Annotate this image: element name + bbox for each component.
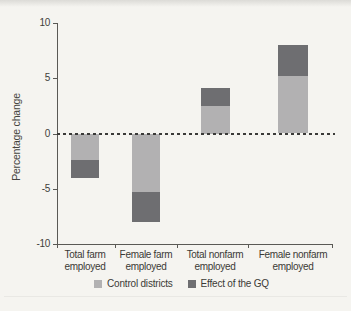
x-axis-line xyxy=(57,244,333,245)
category-label-3: Female nonfarmemployed xyxy=(251,249,335,273)
bar-segment-control-3 xyxy=(278,76,308,133)
chart-figure: Percentage change 1050-5-10Total farmemp… xyxy=(0,0,351,311)
y-axis-title: Percentage change xyxy=(10,93,22,181)
bar-segment-gq-effect-3 xyxy=(278,45,308,76)
bar-segment-gq-effect-2 xyxy=(201,88,230,106)
legend-swatch-control-districts xyxy=(94,280,102,288)
bar-segment-control-0 xyxy=(71,134,99,161)
legend: Control districts Effect of the GQ xyxy=(0,278,351,289)
y-tick-label: -10 xyxy=(24,239,50,249)
y-tick xyxy=(53,23,57,24)
x-tick xyxy=(177,244,178,248)
y-tick-label: -5 xyxy=(24,184,50,194)
zero-baseline xyxy=(57,133,335,135)
bar-segment-gq-effect-1 xyxy=(132,192,160,222)
x-tick xyxy=(115,244,116,248)
legend-label-control-districts: Control districts xyxy=(107,278,173,289)
legend-swatch-effect-of-the-gq xyxy=(188,280,196,288)
y-tick-label: 0 xyxy=(24,129,50,139)
legend-item-effect-of-the-gq: Effect of the GQ xyxy=(188,278,269,289)
x-tick xyxy=(332,244,333,248)
y-tick xyxy=(53,78,57,79)
y-tick-label: 10 xyxy=(24,18,50,28)
x-tick xyxy=(248,244,249,248)
legend-label-effect-of-the-gq: Effect of the GQ xyxy=(201,278,269,289)
bar-segment-control-2 xyxy=(201,106,230,134)
y-tick-label: 5 xyxy=(24,73,50,83)
bar-segment-control-1 xyxy=(132,134,160,193)
legend-item-control-districts: Control districts xyxy=(94,278,173,289)
category-label-2: Total nonfarmemployed xyxy=(173,249,257,273)
x-tick xyxy=(57,244,58,248)
bar-segment-gq-effect-0 xyxy=(71,160,99,178)
y-tick xyxy=(53,189,57,190)
